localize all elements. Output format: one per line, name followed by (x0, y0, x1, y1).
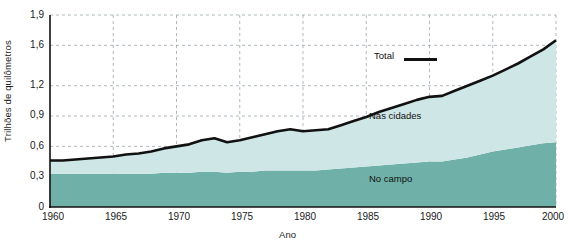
x-tick-label: 1980 (285, 211, 325, 222)
x-tick-label: 1985 (348, 211, 388, 222)
x-tick-label: 1995 (474, 211, 514, 222)
x-tick-label: 2000 (533, 211, 573, 222)
x-tick-label: 1990 (411, 211, 451, 222)
x-tick-label: 1960 (33, 211, 73, 222)
x-tick-label: 1965 (96, 211, 136, 222)
chart-figure: Trilhões de quilômetros 1,9 1,6 1,2 0,9 … (0, 0, 575, 248)
x-tick-label: 1970 (159, 211, 199, 222)
x-axis-title: Ano (0, 229, 575, 240)
x-axis-tick-labels: 1960 1965 1970 1975 1980 1985 1990 1995 … (0, 0, 575, 248)
x-tick-label: 1975 (222, 211, 262, 222)
